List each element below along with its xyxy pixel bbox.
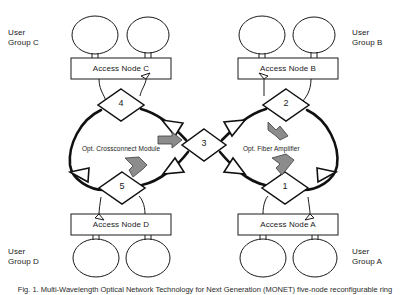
user-group-line2: Group D: [8, 257, 39, 266]
access-node-label-c: Access Node C: [71, 58, 171, 79]
access-node-label-a: Access Node A: [238, 214, 338, 235]
user-terminal: [127, 17, 169, 53]
switch-node-label-1: 1: [275, 181, 295, 191]
annotation-opt-crossconnect-module: Opt. Crossconnect Module: [82, 144, 160, 154]
figure-caption: Fig. 1. Multi-Wavelength Optical Network…: [6, 285, 404, 295]
access-link-out: [303, 79, 311, 101]
user-terminal-group-c: [72, 16, 169, 54]
block-arrow-icon: [272, 154, 294, 175]
user-group-line2: Group B: [352, 38, 383, 47]
user-terminal: [293, 239, 337, 277]
block-arrow-icon: [158, 132, 182, 148]
switch-node-label-3: 3: [194, 138, 214, 148]
user-terminal: [126, 239, 170, 277]
callout-arrow-amplifier-to-node1: [272, 154, 294, 175]
user-terminal: [293, 17, 335, 53]
callout-arrow-amplifier-to-node2: [268, 122, 288, 140]
user-group-line2: Group C: [8, 38, 39, 47]
user-group-line1: User: [352, 247, 369, 256]
block-arrow-icon: [125, 157, 147, 177]
access-node-label-b: Access Node B: [238, 58, 338, 79]
user-terminal: [73, 239, 119, 277]
user-terminal-group-d: [73, 239, 170, 277]
user-terminal: [239, 16, 285, 54]
access-link-out: [99, 79, 105, 101]
user-terminal-group-b: [239, 16, 335, 54]
user-group-line1: User: [8, 247, 25, 256]
figure-container: UserGroup C UserGroup B UserGroup D User…: [0, 0, 407, 295]
switch-node-label-5: 5: [112, 181, 132, 191]
user-group-line1: User: [8, 28, 25, 37]
callout-arrow-crossconnect-to-node3: [158, 132, 182, 148]
access-link-out: [263, 196, 268, 214]
access-link-out: [139, 196, 145, 214]
switch-node-label-2: 2: [276, 98, 296, 108]
user-terminal: [72, 16, 118, 54]
user-terminal: [240, 239, 286, 277]
access-node-label-d: Access Node D: [71, 214, 171, 235]
user-group-label-c: UserGroup C: [8, 28, 39, 48]
annotation-opt-fiber-amplifier: Opt. Fiber Amplifier: [243, 144, 300, 154]
user-group-label-a: UserGroup A: [352, 247, 382, 267]
access-link-in: [99, 197, 101, 214]
callout-arrow-crossconnect-to-node5: [125, 157, 147, 177]
access-link-in: [308, 197, 310, 214]
user-terminal-group-a: [240, 239, 337, 277]
block-arrow-icon: [268, 122, 288, 140]
user-group-line1: User: [352, 28, 369, 37]
switch-node-label-4: 4: [111, 98, 131, 108]
user-group-label-d: UserGroup D: [8, 247, 39, 267]
access-link-in: [140, 79, 146, 96]
user-group-label-b: UserGroup B: [352, 28, 383, 48]
user-group-line2: Group A: [352, 257, 382, 266]
